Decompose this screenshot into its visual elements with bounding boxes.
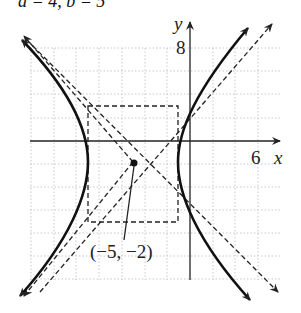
center-leader-line <box>124 166 134 240</box>
center-point <box>131 160 138 167</box>
hyperbola-graph: y 8 6 x (−5, −2) <box>0 0 301 313</box>
left-branch-upper <box>22 40 88 162</box>
y-axis-label: y <box>172 13 183 34</box>
grid <box>30 48 280 280</box>
center-label: (−5, −2) <box>90 241 153 263</box>
y-tick-label: 8 <box>176 37 186 58</box>
x-axis-label: x <box>273 147 283 168</box>
x-tick-label: 6 <box>251 147 261 168</box>
